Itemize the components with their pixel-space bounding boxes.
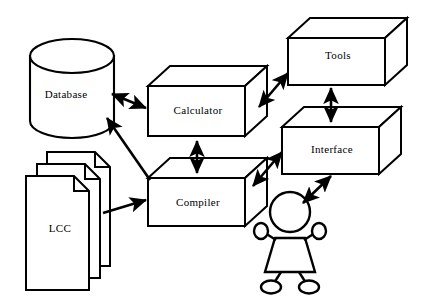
node-database[interactable] bbox=[30, 39, 114, 138]
node-tools[interactable] bbox=[288, 18, 407, 85]
node-lcc[interactable] bbox=[26, 152, 110, 290]
user-foot-left bbox=[261, 281, 281, 294]
lcc-sheet-front bbox=[26, 176, 89, 290]
user-hand-left bbox=[254, 223, 268, 239]
tools-front-face bbox=[288, 38, 385, 85]
node-calculator[interactable] bbox=[148, 66, 267, 136]
diagram-canvas bbox=[0, 0, 423, 302]
database-cylinder-top bbox=[30, 39, 114, 73]
edge-lcc-database bbox=[107, 118, 150, 180]
user-hand-right bbox=[312, 223, 326, 239]
interface-front-face bbox=[282, 127, 379, 174]
edge-database-calculator bbox=[112, 94, 146, 108]
architecture-diagram: Database LCC Calculator Compiler Tools I… bbox=[0, 0, 423, 302]
user-head bbox=[270, 192, 310, 232]
edge-user-interface bbox=[303, 176, 331, 203]
user-foot-right bbox=[299, 281, 319, 294]
node-interface[interactable] bbox=[282, 107, 401, 174]
compiler-front-face bbox=[148, 178, 245, 226]
user-body bbox=[265, 238, 315, 272]
calculator-front-face bbox=[148, 86, 245, 136]
node-compiler[interactable] bbox=[148, 158, 267, 226]
